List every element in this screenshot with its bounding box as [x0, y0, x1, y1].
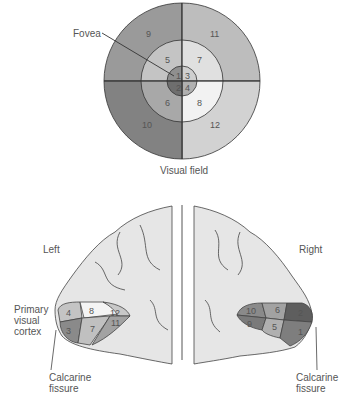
diagram-canvas: 1 2 3 4 5 6 7 8 9 10 11 12 4 8 12 3 7 11 — [0, 0, 355, 404]
svg-text:11: 11 — [210, 29, 219, 39]
svg-text:8: 8 — [89, 306, 94, 316]
svg-text:11: 11 — [111, 318, 120, 328]
right-calcarine-line-2: fissure — [296, 383, 338, 394]
fovea-label: Fovea — [73, 28, 101, 39]
pvc-line-2: visual — [14, 315, 48, 326]
svg-text:10: 10 — [246, 306, 256, 316]
primary-visual-cortex-label: Primary visual cortex — [14, 304, 48, 337]
pvc-line-3: cortex — [14, 326, 48, 337]
left-calcarine-line-2: fissure — [49, 383, 91, 394]
left-calcarine-line-1: Calcarine — [49, 372, 91, 383]
right-calcarine-line-1: Calcarine — [296, 372, 338, 383]
svg-text:9: 9 — [146, 29, 151, 39]
left-calcarine-pointer — [51, 330, 56, 370]
svg-text:8: 8 — [197, 98, 202, 108]
svg-text:2: 2 — [298, 308, 303, 318]
svg-text:2: 2 — [176, 83, 181, 93]
svg-text:3: 3 — [185, 71, 190, 81]
visual-field-caption: Visual field — [160, 165, 208, 176]
pvc-line-1: Primary — [14, 304, 48, 315]
svg-text:1: 1 — [176, 71, 181, 81]
svg-text:10: 10 — [142, 120, 152, 130]
svg-text:7: 7 — [90, 324, 95, 334]
left-hemisphere — [55, 206, 172, 364]
right-calcarine-pointer — [316, 327, 317, 370]
right-label: Right — [299, 244, 322, 255]
svg-text:9: 9 — [247, 319, 252, 329]
svg-text:12: 12 — [210, 120, 220, 130]
svg-text:6: 6 — [165, 98, 170, 108]
visual-field — [102, 3, 260, 159]
svg-text:5: 5 — [272, 322, 277, 332]
svg-text:7: 7 — [197, 55, 202, 65]
svg-text:4: 4 — [66, 308, 71, 318]
svg-text:12: 12 — [110, 308, 120, 318]
right-hemisphere — [194, 206, 313, 364]
svg-text:4: 4 — [185, 83, 190, 93]
svg-text:1: 1 — [298, 327, 303, 337]
right-calcarine-label: Calcarine fissure — [296, 372, 338, 394]
left-calcarine-label: Calcarine fissure — [49, 372, 91, 394]
left-label: Left — [43, 244, 60, 255]
svg-text:6: 6 — [275, 305, 280, 315]
svg-text:3: 3 — [66, 326, 71, 336]
svg-text:5: 5 — [165, 55, 170, 65]
